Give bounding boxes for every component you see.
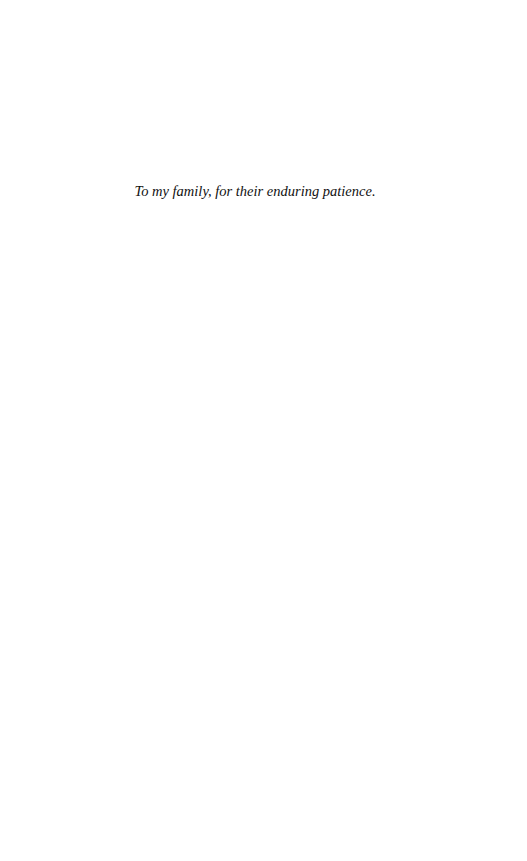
dedication-text: To my family, for their enduring patienc…: [0, 182, 510, 200]
document-page: To my family, for their enduring patienc…: [0, 0, 527, 861]
